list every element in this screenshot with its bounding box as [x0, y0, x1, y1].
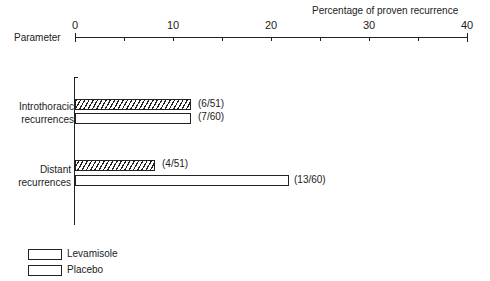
y-axis-cap	[74, 77, 78, 78]
y-axis-title: Parameter	[14, 32, 61, 43]
category-label-line: Introthoracic	[19, 100, 74, 113]
category-label-line: recurrences	[19, 113, 74, 126]
annotation-placebo-distant: (13/60)	[294, 174, 326, 185]
tick-mark	[369, 37, 370, 41]
tick-label-30: 30	[363, 19, 375, 31]
annotation-placebo-introthoracic: (7/60)	[198, 111, 224, 122]
annotation-levamisole-introthoracic: (6/51)	[198, 98, 224, 109]
legend-label-placebo: Placebo	[67, 264, 103, 275]
tick-label-20: 20	[265, 19, 277, 31]
tick-mark	[320, 37, 321, 41]
category-label-line: Distant	[18, 163, 71, 176]
tick-mark	[467, 33, 468, 42]
x-axis-title: Percentage of proven recurrence	[312, 5, 458, 16]
tick-mark	[75, 33, 76, 42]
annotation-levamisole-distant: (4/51)	[162, 158, 188, 169]
tick-mark	[222, 37, 223, 41]
legend-swatch-levamisole	[28, 249, 62, 260]
category-label-line: recurrences	[18, 176, 71, 189]
bar-levamisole-distant	[75, 160, 155, 171]
tick-mark	[173, 37, 174, 41]
tick-label-10: 10	[167, 19, 179, 31]
tick-label-0: 0	[72, 19, 78, 31]
legend-label-levamisole: Levamisole	[67, 248, 118, 259]
category-label-introthoracic: Introthoracic recurrences	[19, 100, 74, 126]
tick-label-40: 40	[461, 19, 473, 31]
bar-placebo-introthoracic	[75, 113, 191, 124]
tick-mark	[124, 37, 125, 41]
bar-placebo-distant	[75, 175, 289, 186]
legend-swatch-placebo	[28, 265, 62, 276]
bar-levamisole-introthoracic	[75, 99, 191, 110]
category-label-distant: Distant recurrences	[18, 163, 71, 189]
tick-mark	[418, 37, 419, 41]
tick-mark	[271, 37, 272, 41]
